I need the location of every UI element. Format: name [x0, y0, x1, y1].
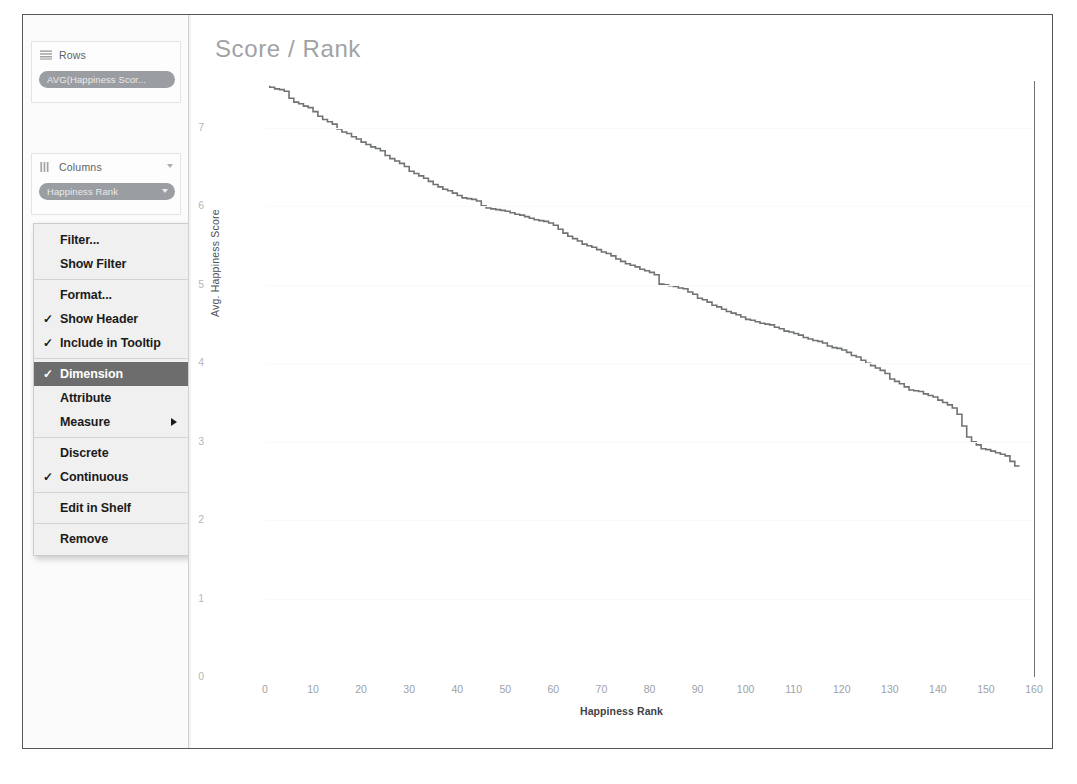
y-axis-tick-label: 1 [164, 592, 204, 604]
screenshot-root: Rows AVG(Happiness Scor... Columns [0, 0, 1077, 784]
x-axis-tick-label: 60 [548, 683, 560, 695]
menu-item-continuous[interactable]: ✓Continuous [34, 465, 188, 489]
x-axis-tick-label: 20 [355, 683, 367, 695]
menu-item-show-header[interactable]: ✓Show Header [34, 307, 188, 331]
menu-item-label: Dimension [60, 367, 123, 381]
y-axis-tick-label: 3 [164, 435, 204, 447]
columns-pill-label: Happiness Rank [47, 186, 118, 197]
y-axis-tick-label: 0 [164, 670, 204, 682]
check-icon: ✓ [43, 366, 53, 382]
menu-item-filter[interactable]: Filter... [34, 228, 188, 252]
columns-shelf[interactable]: Columns Happiness Rank [31, 153, 181, 215]
menu-separator [34, 492, 188, 493]
columns-shelf-label: Columns [59, 161, 102, 173]
check-icon: ✓ [43, 469, 53, 485]
x-axis-tick-label: 120 [833, 683, 851, 695]
x-axis-tick-label: 110 [785, 683, 802, 695]
plot-area [265, 81, 1034, 677]
x-axis-tick-label: 140 [929, 683, 947, 695]
menu-item-label: Remove [60, 532, 108, 546]
x-axis-tick-label: 150 [977, 683, 995, 695]
rows-pill-label: AVG(Happiness Scor... [47, 74, 146, 85]
rows-shelf-pill[interactable]: AVG(Happiness Scor... [39, 71, 175, 88]
y-axis-tick-label: 6 [164, 199, 204, 211]
menu-item-label: Filter... [60, 233, 99, 247]
plot-right-border [1034, 81, 1035, 677]
menu-item-show-filter[interactable]: Show Filter [34, 252, 188, 276]
columns-shelf-icon [40, 162, 52, 172]
x-axis-tick-label: 50 [499, 683, 511, 695]
menu-item-remove[interactable]: Remove [34, 527, 188, 551]
menu-item-label: Measure [60, 415, 110, 429]
x-axis-tick-label: 40 [451, 683, 463, 695]
gridline-horizontal [265, 363, 1034, 364]
y-axis-tick-label: 7 [164, 121, 204, 133]
worksheet-view: Score / Rank Avg. Happiness Score Happin… [191, 15, 1052, 748]
menu-item-label: Show Filter [60, 257, 126, 271]
y-axis-tick-label: 5 [164, 278, 204, 290]
check-icon: ✓ [43, 311, 53, 327]
x-axis-tick-label: 30 [403, 683, 415, 695]
x-axis-tick-label: 160 [1025, 683, 1043, 695]
y-axis-tick-label: 4 [164, 356, 204, 368]
gridline-horizontal [265, 285, 1034, 286]
gridline-horizontal [265, 520, 1034, 521]
menu-item-label: Show Header [60, 312, 138, 326]
pill-chevron-down-icon[interactable] [162, 189, 168, 193]
x-axis-tick-label: 90 [692, 683, 704, 695]
menu-item-include-in-tooltip[interactable]: ✓Include in Tooltip [34, 331, 188, 355]
x-axis-tick-label: 100 [737, 683, 755, 695]
chevron-right-icon [171, 418, 177, 426]
gridline-horizontal [265, 599, 1034, 600]
menu-item-measure[interactable]: Measure [34, 410, 188, 434]
pill-context-menu[interactable]: Filter...Show FilterFormat...✓Show Heade… [33, 223, 189, 556]
columns-shelf-pill[interactable]: Happiness Rank [39, 183, 175, 200]
x-axis-tick-label: 80 [644, 683, 656, 695]
x-axis-tick-label: 10 [307, 683, 319, 695]
line-series [265, 81, 1034, 677]
menu-item-label: Format... [60, 288, 112, 302]
gridline-horizontal [265, 206, 1034, 207]
menu-item-label: Continuous [60, 470, 128, 484]
y-axis-tick-label: 2 [164, 513, 204, 525]
gridline-horizontal [265, 128, 1034, 129]
columns-shelf-header: Columns [40, 161, 102, 173]
rows-shelf-icon [40, 50, 52, 60]
x-axis-tick-label: 70 [596, 683, 608, 695]
rows-shelf-header: Rows [40, 49, 86, 61]
menu-item-label: Discrete [60, 446, 109, 460]
x-axis-tick-label: 130 [881, 683, 899, 695]
menu-item-attribute[interactable]: Attribute [34, 386, 188, 410]
check-icon: ✓ [43, 335, 53, 351]
menu-item-label: Attribute [60, 391, 111, 405]
x-axis-title[interactable]: Happiness Rank [191, 705, 1052, 717]
tableau-window-frame: Rows AVG(Happiness Scor... Columns [22, 14, 1053, 749]
gridline-horizontal [265, 442, 1034, 443]
menu-item-label: Edit in Shelf [60, 501, 131, 515]
x-axis-tick-label: 0 [262, 683, 268, 695]
rows-shelf-label: Rows [59, 49, 86, 61]
menu-item-label: Include in Tooltip [60, 336, 161, 350]
rows-shelf[interactable]: Rows AVG(Happiness Scor... [31, 41, 181, 103]
happiness-score-line [270, 86, 1020, 466]
columns-shelf-chevron-down-icon[interactable] [167, 164, 173, 168]
